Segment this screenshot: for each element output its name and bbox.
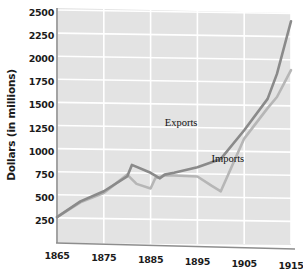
series-annotation-exports: Exports xyxy=(165,117,198,128)
y-tick-label: 2500 xyxy=(8,7,54,18)
y-tick-label: 2000 xyxy=(8,53,54,64)
x-tick-label: 1885 xyxy=(138,254,163,265)
x-tick-label: 1865 xyxy=(44,250,69,261)
line-chart: Dollars (in millions) 250500750100012501… xyxy=(0,0,303,274)
y-tick-label: 1250 xyxy=(8,122,54,133)
y-tick-label: 1500 xyxy=(8,99,54,110)
y-tick-label: 500 xyxy=(8,191,54,202)
y-axis-tick-labels: 2505007501000125015001750200022502500 xyxy=(6,0,54,274)
x-tick-label: 1915 xyxy=(278,260,303,271)
y-tick-label: 1750 xyxy=(8,76,54,87)
y-tick-label: 750 xyxy=(8,168,54,179)
y-tick-label: 1000 xyxy=(8,145,54,156)
y-tick-label: 2250 xyxy=(8,30,54,41)
x-tick-label: 1875 xyxy=(91,252,116,263)
series-annotation-imports: Imports xyxy=(212,153,245,164)
x-tick-label: 1895 xyxy=(185,256,210,267)
x-tick-label: 1905 xyxy=(232,258,257,269)
y-tick-label: 250 xyxy=(8,214,54,225)
